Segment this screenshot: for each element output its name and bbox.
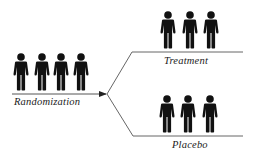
person-icon (13, 53, 28, 90)
placebo-branch-line (107, 94, 243, 136)
treatment-label: Treatment (164, 55, 208, 66)
person-icon (73, 53, 88, 90)
person-icon (160, 11, 175, 48)
placebo-label: Placebo (172, 139, 208, 150)
person-icon (159, 95, 174, 132)
source-group-figures (13, 53, 88, 90)
person-icon (53, 53, 68, 90)
person-icon (203, 11, 218, 48)
person-icon (182, 11, 197, 48)
placebo-group-figures (159, 95, 217, 132)
person-icon (34, 53, 49, 90)
person-icon (202, 95, 217, 132)
randomization-label: Randomization (14, 96, 80, 107)
treatment-group-figures (160, 11, 218, 48)
person-icon (180, 95, 195, 132)
randomization-diagram (0, 0, 255, 154)
